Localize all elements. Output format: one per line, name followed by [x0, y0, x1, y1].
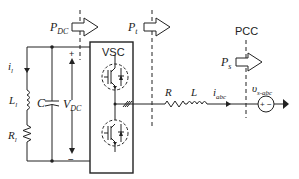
vsc-box [90, 42, 133, 173]
load-resistor [23, 125, 31, 142]
l-label: L [190, 86, 197, 98]
vdc-label: VDC [63, 97, 82, 113]
ll-label: Ll [8, 94, 17, 109]
iabc-arrow-icon [226, 101, 231, 107]
pt-arrow-icon [144, 18, 170, 36]
node-bottom [50, 159, 54, 163]
load-inductor [27, 90, 30, 110]
pcc-label: PCC [235, 25, 258, 37]
vs-abc-label: υs-abc [252, 82, 273, 97]
iabc-label: iabc [213, 86, 227, 101]
rl-label: Rl [7, 129, 17, 144]
vdc-plus: + [69, 49, 74, 59]
il-label: il [8, 60, 13, 75]
il-arrow-icon [24, 68, 30, 73]
pdc-arrow-icon [72, 18, 98, 36]
ground-arrow-icon [283, 99, 289, 109]
capacitor-label: C [37, 96, 46, 110]
node-midpoint [114, 103, 117, 106]
r-label: R [164, 86, 172, 98]
ps-arrow-icon [236, 53, 262, 71]
ps-label: Ps [220, 55, 231, 71]
ac-resistor [165, 101, 185, 107]
pdc-label: PDC [49, 20, 69, 36]
source-plus: + [260, 100, 265, 109]
vsc-label: VSC [102, 46, 125, 58]
vdc-minus: − [68, 154, 74, 165]
ac-inductor [187, 102, 207, 105]
circuit-diagram: PDC Pt Ps VSC PCC il Ll Rl C VDC + − R L… [0, 0, 299, 179]
source-minus: − [267, 100, 272, 109]
pt-label: Pt [127, 20, 138, 36]
node-top [50, 45, 54, 49]
